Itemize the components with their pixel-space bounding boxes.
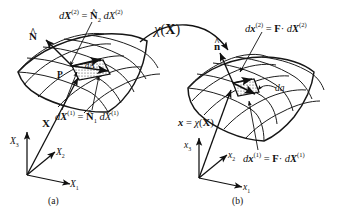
axis-label-x2: x2	[228, 151, 235, 163]
current-edge-vector-2-label: dx(2) = F· dX(2)	[245, 22, 307, 34]
axis-label-X2: X2	[56, 148, 65, 160]
axis-label-x1: x1	[243, 183, 250, 195]
reference-area-label: dA	[85, 61, 95, 70]
current-position-vector-label: x = χ(X)	[178, 118, 214, 129]
caption-panel-b: (b)	[232, 197, 243, 207]
current-edge-vector-1-label: dx(1) = F· dX(1)	[243, 152, 305, 164]
reference-normal-label: ^N	[29, 31, 37, 42]
axis-label-X3: X3	[10, 137, 19, 149]
leader-dx1-current	[249, 101, 258, 150]
leader-da-current	[258, 86, 276, 90]
reference-edge-vector-1-label: dX(1) = ^N1 dX(1)	[55, 110, 119, 124]
caption-panel-a: (a)	[48, 197, 59, 207]
axis-label-X1: X1	[70, 180, 79, 192]
current-normal-label: ^n	[214, 41, 220, 52]
axis-label-x3: x3	[184, 141, 191, 153]
reference-point-label: P	[57, 71, 63, 81]
deformation-map-label: χ(X)	[154, 22, 180, 37]
position-vector-X-label: X	[42, 118, 50, 129]
reference-edge-vector-2-label: dX(2) = ^N2 dX(2)	[59, 9, 123, 23]
current-axes-triad	[199, 138, 242, 187]
current-area-label: da	[275, 83, 285, 93]
leader-dX1-reference-b	[92, 76, 99, 110]
